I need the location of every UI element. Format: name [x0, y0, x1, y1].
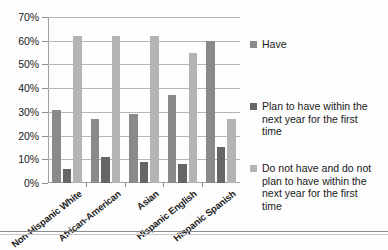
- bar-group: [163, 17, 201, 183]
- legend-label: Have: [262, 38, 287, 51]
- bar-group: [202, 17, 240, 183]
- footer-divider: [0, 231, 388, 232]
- y-axis-tick-label: 30%: [18, 106, 39, 118]
- bar-group: [86, 17, 124, 183]
- bar: [112, 36, 121, 183]
- x-axis-tick: [125, 183, 126, 187]
- bar: [129, 114, 138, 183]
- x-axis-category-label: Asian: [134, 188, 160, 212]
- bar: [52, 110, 61, 184]
- bar: [189, 53, 198, 183]
- x-axis-tick: [86, 183, 87, 187]
- legend-swatch-icon: [250, 103, 257, 110]
- footer-divider-secondary: [0, 234, 388, 235]
- y-axis-tick-label: 50%: [18, 58, 39, 70]
- y-axis-tick-label: 10%: [18, 153, 39, 165]
- x-axis-tick: [163, 183, 164, 187]
- bar: [178, 164, 187, 183]
- bar: [63, 169, 72, 183]
- bar: [91, 119, 100, 183]
- bar-group: [48, 17, 86, 183]
- legend-label: Do not have and do not plan to have with…: [262, 162, 378, 212]
- legend-item[interactable]: Do not have and do not plan to have with…: [250, 162, 378, 212]
- bar: [101, 157, 110, 183]
- chart-figure: 0%10%20%30%40%50%60%70% Non-Hispanic Whi…: [0, 0, 388, 250]
- y-axis-tick-label: 40%: [18, 82, 39, 94]
- y-axis-tick-label: 0%: [24, 177, 39, 189]
- bar-group: [125, 17, 163, 183]
- bar: [73, 36, 82, 183]
- x-axis-tick: [202, 183, 203, 187]
- legend-swatch-icon: [250, 165, 257, 172]
- y-axis-tick-label: 60%: [18, 35, 39, 47]
- bar: [168, 95, 177, 183]
- bar: [150, 36, 159, 183]
- y-axis-tick: [42, 183, 48, 184]
- bar: [227, 119, 236, 183]
- legend-label: Plan to have within the next year for th…: [262, 100, 378, 138]
- legend-item[interactable]: Have: [250, 38, 287, 51]
- bar: [206, 41, 215, 183]
- y-axis-tick-label: 70%: [18, 11, 39, 23]
- bar: [140, 162, 149, 183]
- legend-swatch-icon: [250, 41, 257, 48]
- bar: [217, 147, 226, 183]
- x-axis-category-label: Non-Hispanic White: [9, 188, 84, 250]
- plot-area: 0%10%20%30%40%50%60%70%: [48, 17, 240, 183]
- legend-item[interactable]: Plan to have within the next year for th…: [250, 100, 378, 138]
- y-axis-tick-label: 20%: [18, 130, 39, 142]
